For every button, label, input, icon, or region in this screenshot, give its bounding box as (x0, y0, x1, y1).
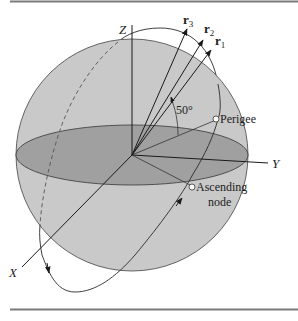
vector-r2-label: r2 (204, 21, 214, 38)
ascending-node-label-line2: node (208, 195, 231, 209)
angle-label: 50° (176, 103, 193, 117)
ascending-node-label-line1: Ascending (196, 180, 247, 194)
x-axis-label: X (8, 265, 18, 280)
vector-r3-label: r3 (183, 12, 194, 29)
z-axis-label: Z (119, 22, 127, 37)
perigee-point (213, 116, 219, 122)
y-axis-label: Y (272, 156, 281, 171)
perigee-label: Perigee (220, 112, 256, 126)
orbit-diagram: Z Y X r3 r2 r1 50° Perigee Ascending nod… (0, 0, 298, 321)
ascending-node-point (189, 184, 195, 190)
vector-r1-label: r1 (215, 33, 225, 50)
